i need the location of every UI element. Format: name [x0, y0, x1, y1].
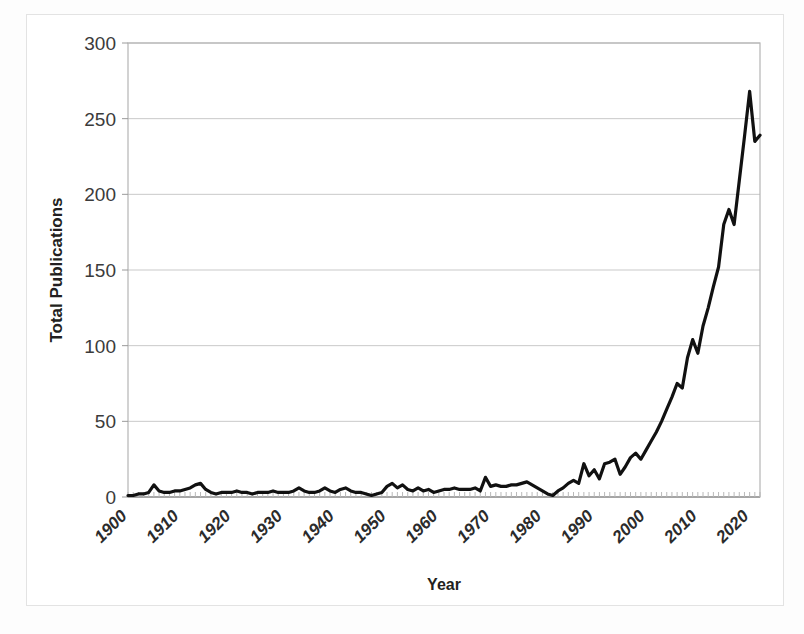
x-tick-label: 1990	[557, 506, 598, 547]
x-tick-label: 1910	[142, 506, 183, 547]
x-axis-title: Year	[427, 576, 461, 593]
x-tick-label: 1970	[453, 506, 494, 547]
x-tick-label: 1930	[246, 506, 287, 547]
figure-canvas: 050100150200250300 190019101920193019401…	[0, 0, 804, 634]
y-tick-label: 50	[95, 411, 116, 432]
x-tick-label: 2020	[712, 506, 753, 547]
x-tick-label: 2000	[608, 506, 649, 547]
x-tick-label: 1980	[505, 506, 546, 547]
y-tick-labels-group: 050100150200250300	[84, 33, 116, 508]
x-tick-label: 1900	[91, 506, 132, 547]
data-series-line	[128, 91, 760, 495]
x-tick-label: 1920	[194, 506, 235, 547]
x-tick-label: 1940	[298, 506, 339, 547]
y-tick-marks-group	[122, 43, 128, 497]
y-axis-title: Total Publications	[47, 197, 66, 342]
x-tick-label: 2010	[660, 506, 701, 547]
x-tick-label: 1960	[401, 506, 442, 547]
y-tick-label: 0	[105, 487, 116, 508]
x-tick-label: 1950	[350, 506, 391, 547]
publications-line-chart: 050100150200250300 190019101920193019401…	[0, 0, 804, 634]
y-tick-label: 150	[84, 260, 116, 281]
gridlines-group	[128, 43, 760, 497]
y-tick-label: 300	[84, 33, 116, 54]
x-tick-labels-group: 1900191019201930194019501960197019801990…	[91, 506, 753, 547]
y-tick-label: 200	[84, 184, 116, 205]
y-tick-label: 250	[84, 109, 116, 130]
y-tick-label: 100	[84, 336, 116, 357]
